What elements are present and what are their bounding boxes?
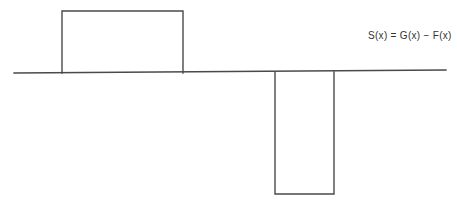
x-axis-baseline <box>14 70 446 73</box>
negative-pulse-rect <box>275 72 334 194</box>
equation-label: S(x) = G(x) − F(x) <box>368 30 452 41</box>
positive-pulse-rect <box>62 11 183 73</box>
